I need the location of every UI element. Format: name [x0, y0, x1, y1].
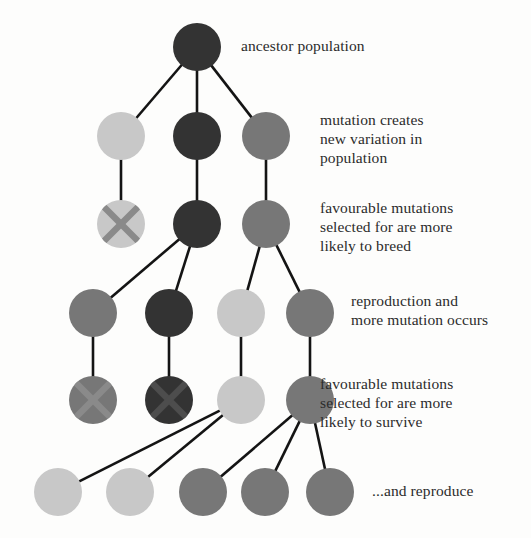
- population-node[interactable]: [242, 200, 290, 248]
- node-circle: [69, 289, 117, 337]
- node-circle: [106, 468, 154, 516]
- node-circle: [306, 468, 354, 516]
- tree-graphic: [0, 0, 531, 538]
- population-node[interactable]: [34, 468, 82, 516]
- evolution-tree-diagram: ancestor populationmutation creates new …: [0, 0, 531, 538]
- population-node[interactable]: [173, 112, 221, 160]
- node-circle: [97, 112, 145, 160]
- population-node[interactable]: [241, 468, 289, 516]
- population-node[interactable]: [97, 200, 145, 248]
- node-circle: [242, 200, 290, 248]
- tree-edge: [275, 243, 300, 294]
- label-favourable-mutations-breed: favourable mutations selected for are mo…: [320, 198, 453, 255]
- node-circle: [241, 468, 289, 516]
- node-circle: [173, 23, 221, 71]
- population-node[interactable]: [286, 289, 334, 337]
- label-and-reproduce: ...and reproduce: [372, 481, 473, 500]
- tree-edge: [219, 414, 294, 479]
- label-mutation-creates-variation: mutation creates new variation in popula…: [320, 110, 424, 167]
- label-favourable-mutations-survive: favourable mutations selected for are mo…: [320, 374, 453, 431]
- node-circle: [179, 468, 227, 516]
- node-layer: [34, 23, 354, 516]
- node-circle: [242, 112, 290, 160]
- population-node[interactable]: [145, 289, 193, 337]
- population-node[interactable]: [106, 468, 154, 516]
- population-node[interactable]: [217, 289, 265, 337]
- population-node[interactable]: [306, 468, 354, 516]
- node-circle: [145, 289, 193, 337]
- node-circle: [173, 112, 221, 160]
- population-node[interactable]: [97, 112, 145, 160]
- population-node[interactable]: [173, 23, 221, 71]
- population-node[interactable]: [217, 376, 265, 424]
- node-circle: [217, 376, 265, 424]
- population-node[interactable]: [179, 468, 227, 516]
- population-node[interactable]: [69, 376, 117, 424]
- tree-edge: [146, 413, 225, 478]
- node-circle: [34, 468, 82, 516]
- node-circle: [286, 289, 334, 337]
- tree-edge: [135, 63, 184, 120]
- label-ancestor-population: ancestor population: [241, 36, 365, 55]
- population-node[interactable]: [242, 112, 290, 160]
- label-reproduction-more-mutation: reproduction and more mutation occurs: [351, 291, 488, 329]
- tree-edge: [210, 64, 253, 120]
- tree-edge: [175, 244, 190, 293]
- node-circle: [173, 200, 221, 248]
- population-node[interactable]: [145, 376, 193, 424]
- tree-edge: [247, 244, 261, 293]
- population-node[interactable]: [173, 200, 221, 248]
- population-node[interactable]: [69, 289, 117, 337]
- node-circle: [217, 289, 265, 337]
